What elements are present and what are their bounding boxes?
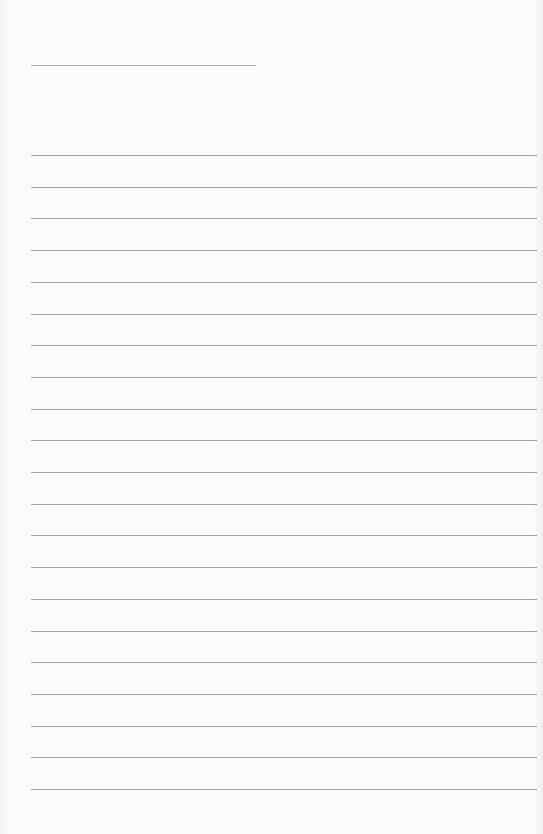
ruled-line — [31, 314, 537, 315]
ruled-line — [31, 694, 537, 695]
ruled-line — [31, 757, 537, 758]
lined-paper-page — [0, 0, 543, 834]
ruled-line — [31, 345, 537, 346]
ruled-line — [31, 155, 537, 156]
ruled-line — [31, 187, 537, 188]
ruled-line — [31, 250, 537, 251]
ruled-line — [31, 409, 537, 410]
ruled-line — [31, 504, 537, 505]
ruled-line — [31, 631, 537, 632]
ruled-line — [31, 535, 537, 536]
ruled-line — [31, 440, 537, 441]
ruled-line — [31, 472, 537, 473]
ruled-line — [31, 282, 537, 283]
ruled-line — [31, 789, 537, 790]
ruled-line — [31, 726, 537, 727]
ruled-line — [31, 377, 537, 378]
ruled-line — [31, 567, 537, 568]
ruled-line — [31, 662, 537, 663]
ruled-line — [31, 218, 537, 219]
header-name-line — [31, 65, 256, 66]
ruled-line — [31, 599, 537, 600]
